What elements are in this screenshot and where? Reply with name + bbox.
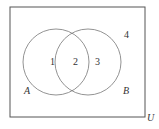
set-b-circle xyxy=(55,29,121,95)
region-3-label: 3 xyxy=(95,56,100,67)
region-2-label: 2 xyxy=(73,56,78,67)
region-4-label: 4 xyxy=(124,29,129,40)
region-1-label: 1 xyxy=(50,56,55,67)
venn-diagram: 1 2 3 4 A B U xyxy=(0,0,159,129)
set-a-circle xyxy=(23,29,89,95)
universe-label: U xyxy=(147,112,155,123)
set-b-label: B xyxy=(123,85,129,96)
set-a-label: A xyxy=(23,85,31,96)
